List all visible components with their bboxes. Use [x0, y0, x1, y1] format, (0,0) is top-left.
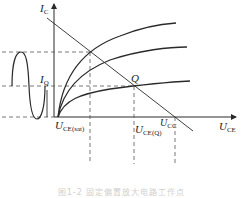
- ucc-label: UCC: [160, 118, 177, 130]
- y-axis-label: IC: [40, 3, 48, 16]
- characteristic-curves: [58, 23, 190, 117]
- x-axis-label: UCE: [219, 121, 236, 134]
- ucesat-label: UCE(sat): [55, 120, 84, 133]
- uceq-label: UCE(Q): [135, 124, 162, 137]
- figure-caption: 图1-2 固定偏置放大电路工作点: [0, 186, 243, 197]
- q-point-label: Q: [131, 73, 139, 84]
- iq-label: IQ: [40, 74, 49, 87]
- diagram-canvas: [0, 0, 243, 198]
- load-line: [47, 18, 193, 131]
